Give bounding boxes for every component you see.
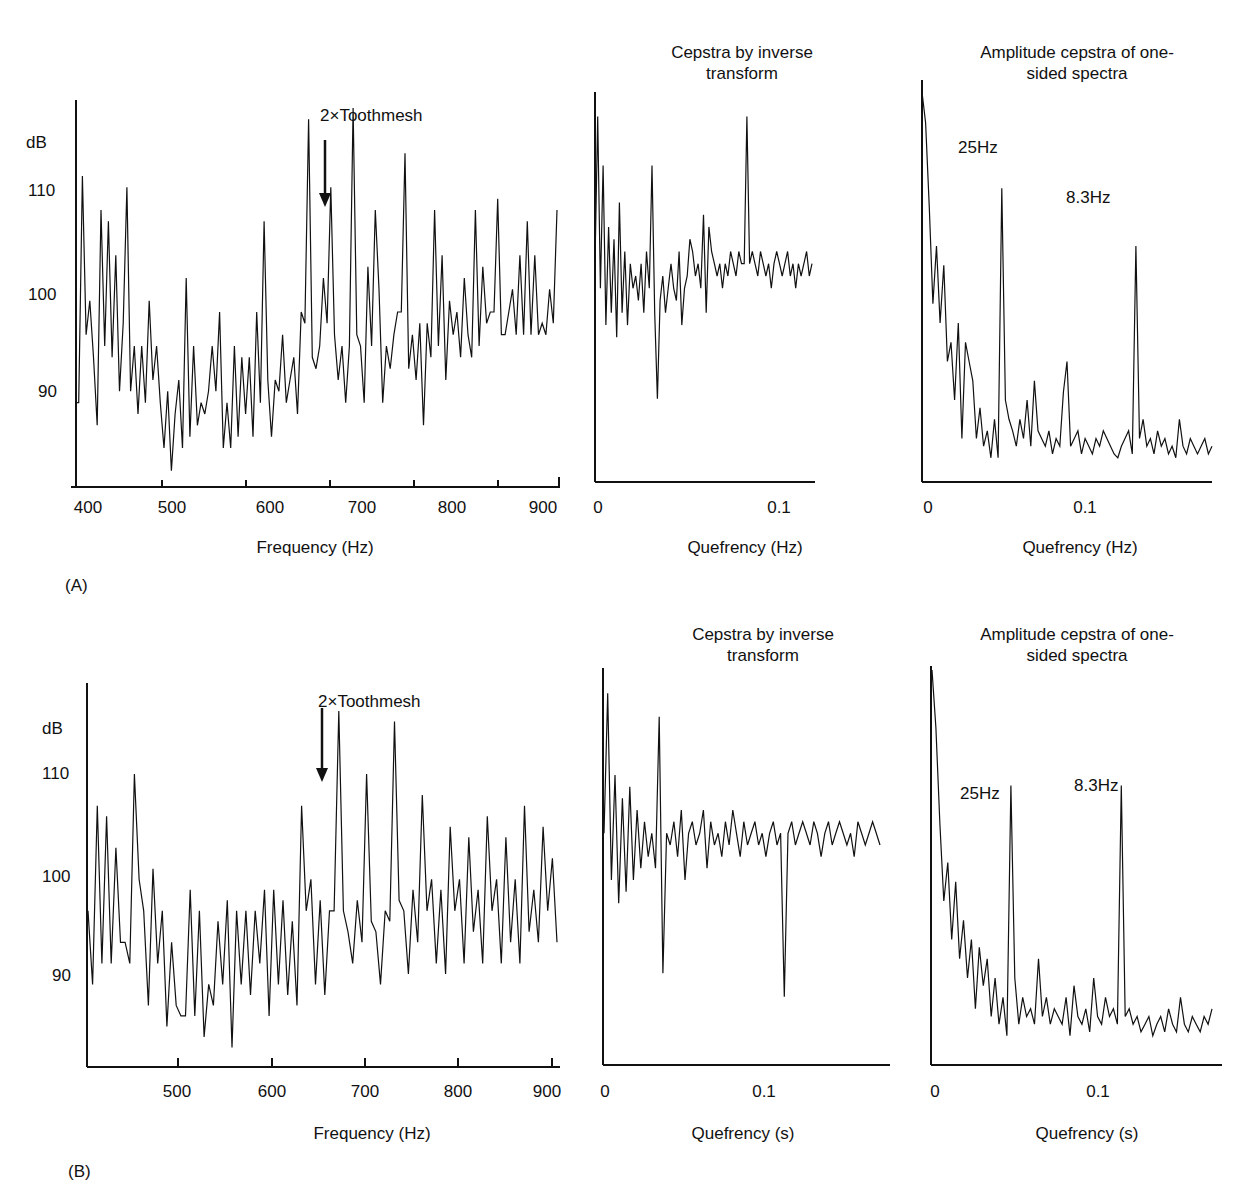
x-axis-label-b: Frequency (Hz): [313, 1124, 430, 1144]
x-axis-label-a: Frequency (Hz): [256, 538, 373, 558]
amplitude-cepstrum-line-b: [932, 670, 1212, 1036]
x-tick-b-500: 500: [163, 1082, 191, 1102]
x-tick-b2-01: 0.1: [752, 1082, 776, 1102]
x-tick-a2-01: 0.1: [767, 498, 791, 518]
x-tick-a-500: 500: [158, 498, 186, 518]
title-cepstra-b: Cepstra by inverse transform: [673, 624, 853, 666]
y-axis-label-a: dB: [26, 133, 47, 153]
x-axis-label-b3: Quefrency (s): [1036, 1124, 1139, 1144]
x-tick-b-600: 600: [258, 1082, 286, 1102]
panel-label-a: (A): [65, 576, 88, 596]
y-axis-label-b: dB: [42, 719, 63, 739]
toothmesh-annotation-b: 2×Toothmesh: [318, 692, 421, 712]
x-axis-label-b2: Quefrency (s): [692, 1124, 795, 1144]
x-tick-a-700: 700: [348, 498, 376, 518]
annotation-25hz-b: 25Hz: [960, 784, 1000, 804]
x-tick-b-700: 700: [351, 1082, 379, 1102]
x-tick-a-900: 900: [529, 498, 557, 518]
annotation-8-3hz-b: 8.3Hz: [1074, 776, 1118, 796]
annotation-25hz-a: 25Hz: [958, 138, 998, 158]
spectrum-line-a: [75, 108, 557, 471]
annotation-8-3hz-a: 8.3Hz: [1066, 188, 1110, 208]
figure-canvas: [0, 0, 1247, 1203]
title-amplitude-b: Amplitude cepstra of one-sided spectra: [967, 624, 1187, 666]
title-cepstra-a: Cepstra by inverse transform: [652, 42, 832, 84]
x-tick-a-600: 600: [256, 498, 284, 518]
x-tick-a-800: 800: [438, 498, 466, 518]
y-tick-b-100: 100: [42, 867, 70, 887]
x-tick-b-800: 800: [444, 1082, 472, 1102]
x-tick-b3-0: 0: [930, 1082, 939, 1102]
x-tick-a2-0: 0: [593, 498, 602, 518]
y-tick-b-90: 90: [52, 966, 71, 986]
x-tick-a-400: 400: [74, 498, 102, 518]
y-tick-a-110: 110: [28, 181, 55, 201]
cepstrum-line-b: [604, 693, 880, 996]
panel-label-b: (B): [68, 1162, 91, 1182]
y-tick-b-110: 110: [42, 764, 69, 784]
x-tick-b2-0: 0: [600, 1082, 609, 1102]
cepstrum-line-a: [595, 117, 812, 399]
x-tick-a3-01: 0.1: [1073, 498, 1097, 518]
x-axis-label-a2: Quefrency (Hz): [687, 538, 802, 558]
toothmesh-annotation-a: 2×Toothmesh: [320, 106, 423, 126]
x-axis-label-a3: Quefrency (Hz): [1022, 538, 1137, 558]
x-tick-b-900: 900: [533, 1082, 561, 1102]
y-tick-a-90: 90: [38, 382, 57, 402]
title-amplitude-a: Amplitude cepstra of one-sided spectra: [967, 42, 1187, 84]
y-tick-a-100: 100: [28, 285, 56, 305]
x-tick-b3-01: 0.1: [1086, 1082, 1110, 1102]
x-tick-a3-0: 0: [923, 498, 932, 518]
